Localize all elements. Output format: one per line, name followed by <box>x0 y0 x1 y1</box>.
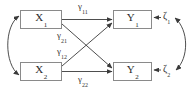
path-label-gamma-21: γ21 <box>57 31 67 42</box>
path-label-gamma-22: γ22 <box>78 75 88 86</box>
covariance-curve-zeta1-zeta2 <box>175 18 186 70</box>
path-diagram: X1 X2 Y1 Y2 γ11 γ21 γ12 γ22 ζ1 ζ2 <box>0 0 193 90</box>
path-label-gamma-11: γ11 <box>78 2 88 13</box>
node-y1-label: Y1 <box>127 12 138 26</box>
path-x1-to-y2 <box>62 24 112 68</box>
node-x1[interactable]: X1 <box>20 10 62 29</box>
node-y2[interactable]: Y2 <box>113 62 152 81</box>
node-y1[interactable]: Y1 <box>113 10 152 29</box>
node-x1-label: X1 <box>35 12 46 26</box>
node-x2-label: X2 <box>35 64 46 78</box>
disturbance-label-zeta-2: ζ2 <box>163 64 170 76</box>
path-label-gamma-12: γ12 <box>57 47 67 58</box>
path-x2-to-y1 <box>62 23 112 66</box>
node-x2[interactable]: X2 <box>20 62 62 81</box>
node-y2-label: Y2 <box>127 64 138 78</box>
covariance-curve-x1-x2 <box>8 16 19 75</box>
disturbance-label-zeta-1: ζ1 <box>163 11 170 23</box>
